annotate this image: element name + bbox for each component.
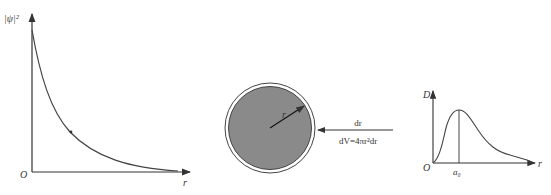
y-axis-label: |ψ|² xyxy=(4,13,20,24)
y-axis-label: D xyxy=(422,89,431,100)
spherical-shell: r dr dV=4πr²dr xyxy=(225,83,393,173)
peak-label: a₀ xyxy=(453,167,461,177)
dr-label: dr xyxy=(354,118,362,128)
decay-curve xyxy=(32,30,178,171)
origin-label: O xyxy=(20,169,27,180)
volume-formula: dV=4πr²dr xyxy=(339,136,377,146)
diagram-canvas: |ψ|² r O r dr dV=4πr²dr D r O a₀ xyxy=(0,0,551,195)
origin-label: O xyxy=(423,162,430,173)
probability-density-plot: |ψ|² r O xyxy=(4,13,190,188)
radius-label: r xyxy=(282,109,286,120)
distribution-curve xyxy=(433,110,532,163)
x-axis-label: r xyxy=(183,177,187,188)
curve-dot xyxy=(70,131,73,134)
radial-distribution-plot: D r O a₀ xyxy=(422,89,542,177)
x-axis-label: r xyxy=(538,158,542,169)
